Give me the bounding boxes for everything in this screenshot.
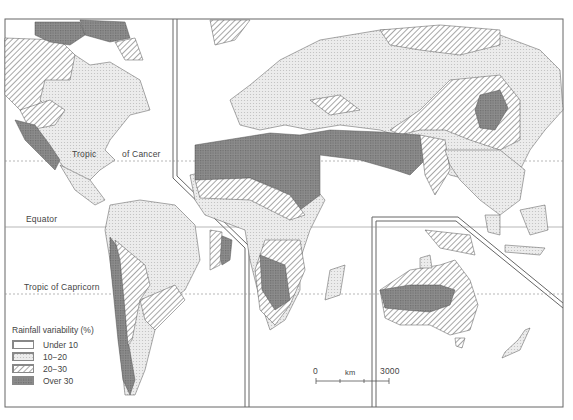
legend-item-10-20: 10−20: [12, 351, 94, 362]
tropic-of-cancer-label-part1: Tropic: [72, 149, 97, 159]
legend: Rainfall variability (%) Under 10 10−20 …: [12, 325, 94, 387]
legend-label: Under 10: [43, 340, 78, 350]
crosshatch-swatch-icon: [12, 376, 34, 385]
scale-end-label: 3000: [380, 366, 400, 376]
scale-bar: [316, 378, 389, 384]
scale-unit-label: km: [345, 368, 355, 377]
legend-item-under-10: Under 10: [12, 339, 94, 350]
equator-label: Equator: [26, 214, 57, 224]
tropic-of-cancer-label-part2: of Cancer: [122, 149, 161, 159]
dotted-swatch-icon: [12, 352, 34, 361]
legend-label: 20−30: [43, 364, 67, 374]
scale-start-label: 0: [313, 366, 318, 376]
legend-item-20-30: 20−30: [12, 363, 94, 374]
tropic-of-capricorn-label: Tropic of Capricorn: [24, 282, 100, 292]
legend-title: Rainfall variability (%): [12, 325, 94, 335]
hatched-swatch-icon: [12, 364, 34, 373]
blank-swatch-icon: [12, 340, 34, 349]
legend-label: Over 30: [43, 376, 73, 386]
south-america: [105, 200, 232, 395]
legend-label: 10−20: [43, 352, 67, 362]
legend-item-over-30: Over 30: [12, 375, 94, 386]
north-america: [5, 20, 150, 205]
